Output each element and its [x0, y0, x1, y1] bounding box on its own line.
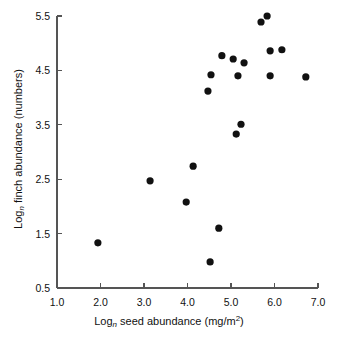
data-point: [230, 55, 237, 62]
x-axis-tick-label: 2.0: [93, 296, 108, 308]
x-axis-tick-label: 7.0: [311, 296, 326, 308]
data-point: [278, 46, 285, 53]
data-point: [234, 72, 241, 79]
y-axis-title-subscript: n: [17, 206, 26, 210]
data-point: [240, 59, 247, 66]
data-point: [94, 239, 101, 246]
y-axis-title: Logn finch abundance (numbers): [12, 0, 26, 299]
x-axis-tick-label: 3.0: [137, 296, 152, 308]
x-axis-tick-label: 6.0: [267, 296, 282, 308]
x-axis-tick-label: 5.0: [224, 296, 239, 308]
data-point: [257, 18, 264, 25]
x-axis-tick-label: 1.0: [50, 296, 65, 308]
x-axis-title-suffix: ): [240, 315, 244, 327]
axis-lines: [57, 16, 318, 288]
data-point: [190, 163, 197, 170]
x-axis-tick-label: 4.0: [180, 296, 195, 308]
scatter-plot-figure: 5.54.53.52.51.50.5 1.02.03.04.05.06.07.0…: [0, 0, 338, 339]
data-point: [204, 87, 211, 94]
plot-canvas: [0, 0, 338, 339]
data-point: [302, 73, 309, 80]
data-point: [267, 47, 274, 54]
y-axis-title-prefix: Log: [12, 211, 24, 229]
data-points: [94, 12, 309, 265]
data-point: [233, 130, 240, 137]
y-axis-title-suffix: finch abundance (numbers): [12, 69, 24, 206]
data-point: [146, 177, 153, 184]
data-point: [207, 71, 214, 78]
data-point: [218, 52, 225, 59]
data-point: [183, 198, 190, 205]
axis-ticks: [57, 16, 318, 288]
x-axis-title-prefix: Log: [94, 315, 112, 327]
x-axis-title-middle: seed abundance (mg/m: [117, 315, 236, 327]
data-point: [207, 258, 214, 265]
x-axis-title: Logn seed abundance (mg/m2): [0, 314, 338, 329]
data-point: [264, 12, 271, 19]
data-point: [267, 72, 274, 79]
data-point: [215, 225, 222, 232]
data-point: [237, 121, 244, 128]
